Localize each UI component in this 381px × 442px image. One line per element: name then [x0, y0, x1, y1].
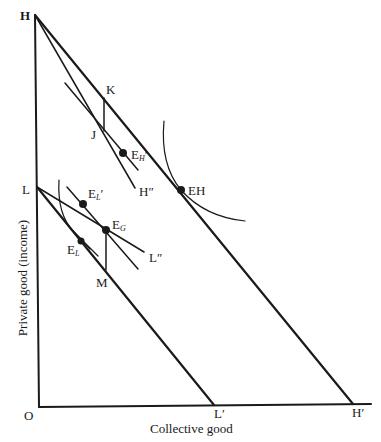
indifference-curve-H — [163, 121, 245, 221]
label-H-prime: H′ — [352, 406, 364, 419]
point-E-H-prime — [119, 149, 127, 157]
label-L-dprime: L″ — [149, 251, 162, 264]
indifference-curve-L — [59, 180, 90, 249]
diagram-lines — [0, 0, 381, 442]
label-L: L — [22, 183, 30, 196]
point-E-G — [102, 226, 110, 234]
label-J: J — [91, 128, 96, 141]
label-E-L-prime: EL′ — [88, 187, 103, 202]
x-axis-label: Collective good — [150, 421, 233, 437]
budget-line-H — [35, 15, 353, 404]
y-axis — [35, 15, 39, 407]
point-E-L-prime — [79, 200, 87, 208]
label-M: M — [96, 276, 108, 289]
label-O: O — [24, 409, 33, 422]
y-axis-label: Private good (income) — [15, 203, 31, 353]
label-E-L-sub: L — [75, 249, 79, 258]
label-H-dprime: H″ — [139, 185, 154, 198]
label-E-H-prime-sub: H — [139, 154, 145, 163]
line-H-H-dprime — [35, 15, 135, 188]
label-H: H — [20, 9, 30, 22]
label-E-H-prime: EH′ — [131, 148, 148, 163]
label-K: K — [106, 83, 115, 96]
label-E-L-main: E — [67, 242, 75, 257]
diagram: H K J EH′ H″ EH L EL′ EG EL L″ M O L′ H′… — [0, 0, 381, 442]
x-axis — [39, 404, 371, 407]
label-E-G: EG — [112, 218, 126, 233]
point-EH — [177, 186, 185, 194]
label-E-H-prime-main: E — [131, 147, 139, 162]
label-E-L-prime-sub: L — [96, 193, 100, 202]
label-E-G-main: E — [112, 217, 120, 232]
label-EH: EH — [188, 184, 205, 197]
label-E-G-sub: G — [120, 224, 126, 233]
label-L-prime: L′ — [214, 407, 225, 420]
label-E-L-prime-main: E — [88, 186, 96, 201]
label-E-L: EL — [67, 243, 79, 258]
